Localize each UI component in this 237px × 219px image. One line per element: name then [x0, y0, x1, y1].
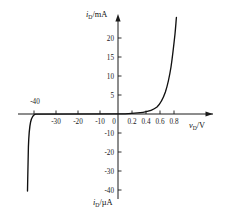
y-tick-labels: 20 15 10 5 -10 -20 -30 -40: [104, 35, 114, 195]
y-tick-label-15: 15: [107, 54, 115, 62]
y-axis-bottom-title: iD/µA: [93, 198, 113, 208]
y-tick-label-10: 10: [107, 73, 115, 81]
diode-iv-characteristic-chart: -30 -20 -10 0 0.2 0.4 0.6 0.8 -40 20 15 …: [0, 0, 237, 219]
y-axis-arrow-icon: [115, 14, 120, 22]
x-tick-label-0: 0: [112, 118, 116, 126]
x-axis-arrow-icon: [206, 111, 214, 116]
x-tick-label--10: -10: [95, 118, 105, 126]
x-tick-label-0.2: 0.2: [128, 118, 137, 126]
y-axis-bottom-title-unit: /µA: [99, 198, 112, 207]
y-tick-label--20: -20: [104, 149, 114, 157]
x-tick-label--30: -30: [51, 118, 61, 126]
x-tick-labels: -30 -20 -10 0 0.2 0.4 0.6 0.8: [51, 118, 179, 126]
x-axis-title-unit: /V: [197, 121, 205, 130]
x-tick-label-0.4: 0.4: [142, 118, 151, 126]
figure-root: -30 -20 -10 0 0.2 0.4 0.6 0.8 -40 20 15 …: [0, 0, 237, 219]
figure-caption: [0, 210, 237, 219]
y-tick-label-5: 5: [110, 92, 114, 100]
x-tick-label--20: -20: [73, 118, 83, 126]
y-tick-label-20: 20: [107, 35, 115, 43]
y-axis-top-title: iD/mA: [86, 10, 107, 20]
x-tick-label-0.6: 0.6: [156, 118, 165, 126]
breakdown-voltage-annotation: -40: [30, 98, 40, 106]
y-axis-top-title-unit: /mA: [92, 10, 107, 19]
y-tick-label--40: -40: [104, 187, 114, 195]
x-tick-label-0.8: 0.8: [170, 118, 179, 126]
y-tick-label--30: -30: [104, 168, 114, 176]
x-axis-title: vD/V: [189, 121, 205, 131]
y-tick-label--10: -10: [104, 130, 114, 138]
diode-iv-curve: [28, 18, 177, 192]
